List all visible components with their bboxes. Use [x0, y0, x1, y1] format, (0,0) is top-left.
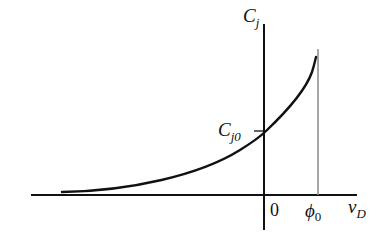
phi0-label: ϕ0 — [305, 200, 321, 224]
y-axis-label: Cj — [243, 5, 260, 30]
x-axis-label: vD — [348, 196, 366, 221]
intercept-label: Cj0 — [218, 119, 241, 144]
capacitance-diagram: Cj Cj0 0 ϕ0 vD — [0, 0, 389, 236]
capacitance-curve — [62, 57, 316, 192]
origin-label: 0 — [270, 200, 279, 220]
